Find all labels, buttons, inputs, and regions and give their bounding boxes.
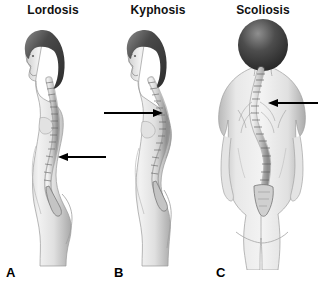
panel-letter-c: C [216, 265, 225, 280]
panel-title-lordosis: Lordosis [0, 3, 106, 17]
lordosis-arrow [58, 153, 106, 161]
scoliosis-body-outline [219, 66, 306, 270]
panel-kyphosis: Kyphosis [104, 0, 212, 288]
scoliosis-illustration [208, 18, 318, 270]
lordosis-body [25, 30, 72, 266]
panel-letter-a: A [6, 265, 15, 280]
lordosis-eye [32, 55, 34, 57]
kyphosis-illustration [104, 18, 212, 270]
panel-title-kyphosis: Kyphosis [104, 3, 212, 17]
panel-title-scoliosis: Scoliosis [208, 3, 318, 17]
lordosis-illustration [0, 18, 106, 270]
kyphosis-arrow [104, 109, 163, 117]
panel-letter-b: B [114, 265, 123, 280]
scoliosis-hair [238, 19, 288, 71]
panel-lordosis: Lordosis [0, 0, 106, 288]
kyphosis-eye [134, 55, 136, 57]
spinal-curvature-figure: Lordosis [0, 0, 318, 288]
panel-scoliosis: Scoliosis [208, 0, 318, 288]
